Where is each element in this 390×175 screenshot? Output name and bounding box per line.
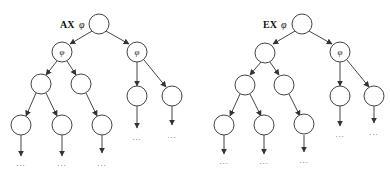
ax-title-operator: AX: [60, 19, 75, 30]
edge: [230, 94, 240, 116]
ax-title-formula: φ: [79, 19, 85, 30]
edge: [26, 93, 36, 116]
continuation-ellipsis: ...: [97, 159, 107, 168]
root-state-node: [292, 14, 312, 34]
ax-tree: AX φ φ φ ... ... ... ... ...: [11, 14, 182, 168]
phi-label: φ: [135, 47, 140, 57]
state-node: [214, 115, 234, 135]
edge: [273, 31, 295, 44]
state-node: [71, 74, 91, 94]
state-node: [330, 86, 350, 106]
edge: [270, 62, 279, 75]
continuation-ellipsis: ...: [219, 157, 229, 166]
state-node: [162, 86, 182, 106]
edge: [46, 61, 57, 75]
root-state-node: [89, 14, 109, 34]
edge: [86, 93, 97, 116]
state-node: [274, 75, 294, 95]
edge: [70, 31, 92, 44]
edge: [250, 94, 261, 116]
state-node: [235, 75, 255, 95]
state-node: [52, 115, 72, 135]
edge: [289, 94, 300, 116]
continuation-ellipsis: ...: [57, 159, 67, 168]
edge: [67, 61, 76, 75]
edge: [144, 60, 166, 87]
continuation-ellipsis: ...: [299, 156, 309, 165]
state-node: [294, 114, 314, 134]
ctl-trees-figure: AX φ φ φ ... ... ... ... ...: [0, 0, 390, 175]
edge: [46, 93, 57, 116]
state-node: [364, 86, 384, 106]
continuation-ellipsis: ...: [16, 159, 26, 168]
state-node: [254, 115, 274, 135]
continuation-ellipsis: ...: [167, 131, 177, 140]
ex-title-formula: φ: [281, 19, 287, 30]
phi-label: φ: [60, 47, 65, 57]
edge: [309, 31, 332, 44]
continuation-ellipsis: ...: [369, 128, 379, 137]
continuation-ellipsis: ...: [132, 133, 142, 142]
phi-label: φ: [338, 47, 343, 57]
state-node: [255, 43, 275, 63]
ex-tree: EX φ φ ... ... ... ... ...: [214, 14, 384, 166]
state-node: [11, 115, 31, 135]
state-node: [127, 86, 147, 106]
continuation-ellipsis: ...: [259, 157, 269, 166]
continuation-ellipsis: ...: [335, 130, 345, 139]
state-node: [92, 115, 112, 135]
ex-title-operator: EX: [263, 19, 278, 30]
edge: [347, 60, 369, 87]
edge: [250, 62, 261, 75]
state-node: [31, 74, 51, 94]
edge: [106, 31, 129, 44]
